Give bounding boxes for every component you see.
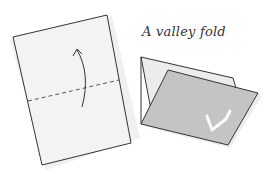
folded-sheet — [141, 57, 262, 148]
diagram-caption: A valley fold — [142, 24, 226, 39]
valley-fold-illustration — [0, 0, 271, 174]
